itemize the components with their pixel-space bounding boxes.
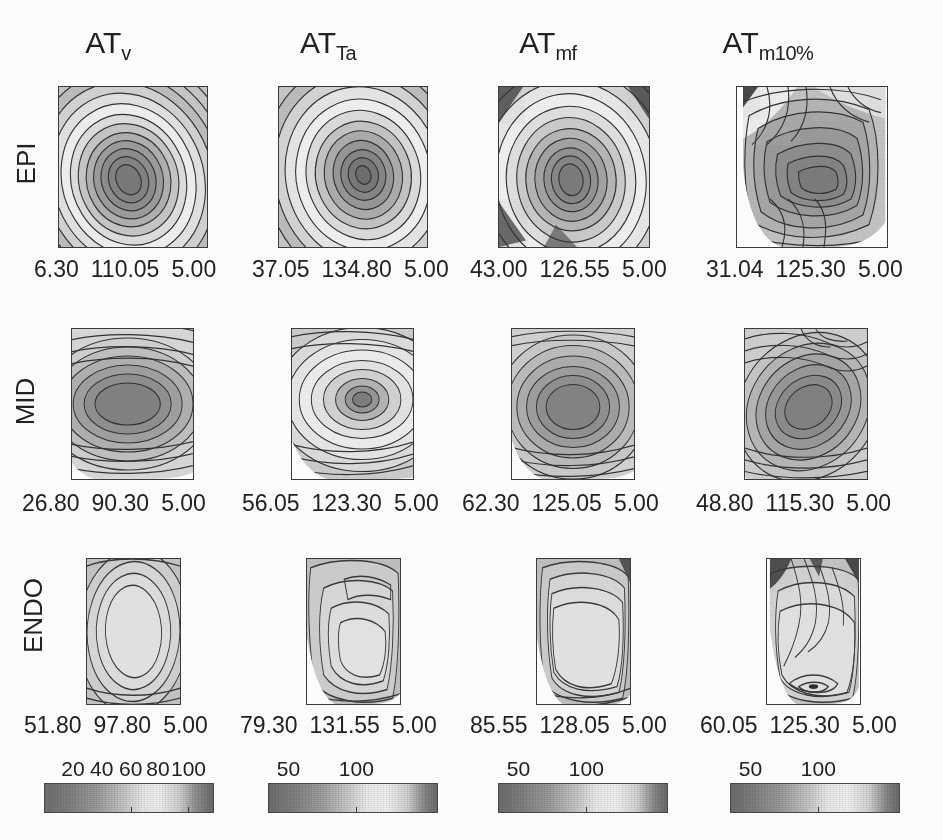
colorbar-tick: 100 — [339, 757, 374, 781]
colorbar-gradient-at-ta — [268, 783, 438, 813]
contour-map-epi-at-mf — [499, 87, 649, 247]
caption-min: 43.00 — [470, 256, 528, 283]
caption-max: 125.30 — [776, 256, 846, 283]
caption-min: 62.30 — [462, 490, 520, 517]
caption-max: 97.80 — [94, 712, 152, 739]
contour-map-endo-at-ta — [307, 559, 400, 704]
colorbar-tick: 60 — [119, 757, 142, 781]
row-label-mid-text: MID — [10, 378, 41, 426]
column-header-base: AT — [519, 26, 555, 59]
contour-map-epi-at-m10 — [737, 87, 887, 247]
column-header-at-m10: ATm10% — [658, 26, 878, 65]
colorbar-tick: 100 — [569, 757, 604, 781]
caption-min: 37.05 — [252, 256, 310, 283]
column-header-base: AT — [300, 26, 336, 59]
caption-endo-at-ta: 79.30131.555.00 — [240, 712, 437, 739]
caption-max: 115.30 — [766, 490, 835, 517]
contour-map-mid-at-m10 — [745, 329, 867, 479]
caption-max: 128.05 — [540, 712, 610, 739]
caption-min: 56.05 — [242, 490, 300, 517]
caption-min: 48.80 — [696, 490, 754, 517]
row-label-epi-text: EPI — [11, 143, 42, 185]
caption-step: 5.00 — [394, 490, 439, 517]
caption-epi-at-ta: 37.05134.805.00 — [252, 256, 449, 283]
caption-epi-at-m10: 31.04125.305.00 — [706, 256, 903, 283]
caption-mid-at-v: 26.8090.305.00 — [22, 490, 206, 517]
caption-min: 51.80 — [24, 712, 82, 739]
colorbar-ticks-at-v: 20 40 60 80 100 — [44, 757, 214, 783]
contour-map-endo-at-m10 — [767, 559, 860, 704]
contour-map-endo-at-v — [87, 559, 180, 704]
colorbar-gradient-at-mf — [498, 783, 668, 813]
colorbar-tick: 50 — [739, 757, 762, 781]
column-header-subscript: v — [121, 42, 131, 64]
caption-step: 5.00 — [846, 490, 891, 517]
caption-endo-at-m10: 60.05125.305.00 — [700, 712, 897, 739]
caption-mid-at-mf: 62.30125.055.00 — [462, 490, 659, 517]
caption-step: 5.00 — [852, 712, 897, 739]
caption-max: 134.80 — [322, 256, 392, 283]
colorbar-tick: 100 — [801, 757, 836, 781]
contour-map-epi-at-ta — [279, 87, 427, 247]
colorbar-gradient-at-v — [44, 783, 214, 813]
caption-mid-at-m10: 48.80115.305.00 — [696, 490, 891, 517]
column-header-base: AT — [85, 26, 121, 59]
contour-figure: ATv ATTa ATmf ATm10% EPI MID ENDO — [0, 0, 943, 840]
colorbar-tick: 40 — [90, 757, 113, 781]
caption-max: 110.05 — [91, 256, 160, 283]
colorbar-at-m10: 50 100 — [730, 757, 900, 813]
panel-endo-at-ta — [306, 558, 401, 705]
caption-min: 85.55 — [470, 712, 528, 739]
colorbar-ticks-at-mf: 50 100 — [498, 757, 668, 783]
caption-min: 31.04 — [706, 256, 764, 283]
row-label-epi: EPI — [6, 148, 40, 179]
panel-endo-at-mf — [536, 558, 631, 705]
panel-endo-at-m10 — [766, 558, 861, 705]
panel-epi-at-mf — [498, 86, 650, 248]
contour-map-mid-at-ta — [292, 329, 413, 479]
caption-min: 60.05 — [700, 712, 758, 739]
caption-step: 5.00 — [404, 256, 449, 283]
panel-epi-at-m10 — [736, 86, 888, 248]
contour-map-mid-at-mf — [512, 329, 634, 479]
caption-max: 126.55 — [540, 256, 610, 283]
column-header-at-ta: ATTa — [218, 26, 438, 65]
colorbar-tick: 50 — [507, 757, 530, 781]
colorbar-at-ta: 50 100 — [268, 757, 438, 813]
panel-mid-at-v — [71, 328, 194, 480]
caption-step: 5.00 — [622, 256, 667, 283]
colorbar-tick: 20 — [61, 757, 84, 781]
panel-mid-at-ta — [291, 328, 414, 480]
panel-epi-at-v — [58, 86, 208, 248]
caption-step: 5.00 — [858, 256, 903, 283]
contour-map-endo-at-mf — [537, 559, 630, 704]
caption-endo-at-mf: 85.55128.055.00 — [470, 712, 667, 739]
panel-epi-at-ta — [278, 86, 428, 248]
caption-min: 79.30 — [240, 712, 298, 739]
caption-max: 131.55 — [310, 712, 380, 739]
caption-max: 123.30 — [312, 490, 382, 517]
row-label-endo: ENDO — [0, 600, 50, 631]
column-header-at-v: ATv — [0, 26, 218, 65]
colorbar-tick: 100 — [171, 757, 206, 781]
column-header-base: AT — [723, 26, 759, 59]
caption-epi-at-mf: 43.00126.555.00 — [470, 256, 667, 283]
caption-step: 5.00 — [392, 712, 437, 739]
panel-mid-at-mf — [511, 328, 635, 480]
colorbar-at-v: 20 40 60 80 100 — [44, 757, 214, 813]
column-header-subscript: mf — [555, 42, 576, 64]
caption-endo-at-v: 51.8097.805.00 — [24, 712, 208, 739]
column-header-subscript: m10% — [759, 42, 814, 64]
column-header-at-mf: ATmf — [438, 26, 658, 65]
colorbar-at-mf: 50 100 — [498, 757, 668, 813]
caption-step: 5.00 — [161, 490, 206, 517]
caption-step: 5.00 — [163, 712, 208, 739]
caption-min: 26.80 — [22, 490, 80, 517]
caption-step: 5.00 — [614, 490, 659, 517]
contour-map-mid-at-v — [72, 329, 193, 479]
caption-epi-at-v: 6.30110.055.00 — [34, 256, 216, 283]
panel-endo-at-v — [86, 558, 181, 705]
caption-step: 5.00 — [622, 712, 667, 739]
caption-min: 6.30 — [34, 256, 79, 283]
row-label-mid: MID — [2, 386, 44, 417]
